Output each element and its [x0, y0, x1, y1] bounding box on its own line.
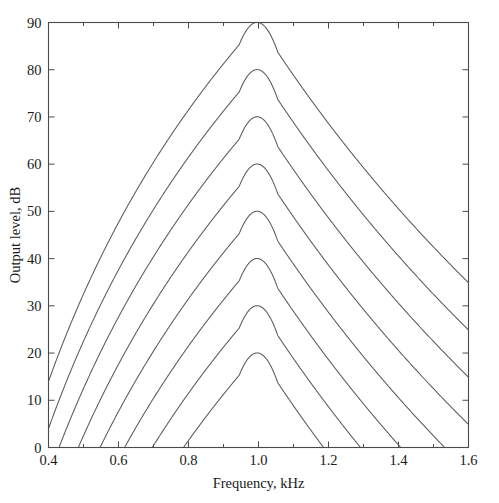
y-tick-label: 0: [34, 440, 41, 456]
x-tick-label: 1.2: [319, 452, 337, 468]
x-tick-label: 0.4: [39, 452, 58, 468]
y-tick-label: 80: [27, 62, 42, 78]
x-tick-label: 1.6: [459, 452, 477, 468]
output-level-vs-frequency-chart: 0.40.60.81.01.21.41.60102030405060708090…: [0, 0, 499, 503]
response-curve-90db: [49, 23, 256, 382]
x-tick-label: 0.8: [179, 452, 197, 468]
response-curve-80db: [49, 70, 469, 429]
response-curve-70db: [59, 117, 468, 447]
curve-group: [49, 23, 469, 448]
x-tick-label: 1.0: [249, 452, 267, 468]
y-tick-label: 20: [27, 345, 42, 361]
x-tick-label: 0.6: [109, 452, 127, 468]
y-tick-label: 90: [27, 15, 42, 31]
response-curve-50db: [100, 211, 444, 447]
response-curve-30db: [153, 306, 361, 447]
chart-figure: 0.40.60.81.01.21.41.60102030405060708090…: [0, 0, 499, 503]
y-tick-label: 40: [27, 251, 42, 267]
y-tick-label: 70: [27, 109, 42, 125]
x-axis-title: Frequency, kHz: [213, 475, 305, 491]
y-axis-title: Output level, dB: [7, 187, 23, 283]
x-tick-label: 1.4: [389, 452, 408, 468]
response-curve-60db: [78, 164, 468, 447]
response-curve-90db: [259, 23, 469, 283]
response-curve-20db: [184, 353, 324, 447]
response-curve-40db: [125, 258, 400, 447]
y-tick-label: 50: [27, 203, 42, 219]
y-tick-label: 30: [27, 298, 42, 314]
y-tick-label: 10: [27, 392, 42, 408]
y-tick-label: 60: [27, 156, 42, 172]
